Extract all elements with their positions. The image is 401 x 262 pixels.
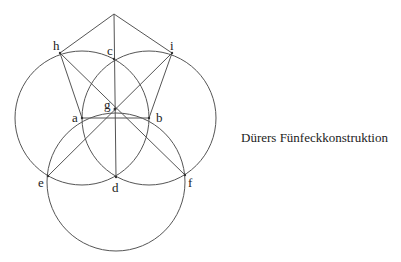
label-e: e [38,175,44,190]
line-i-b [149,53,172,118]
line-apex-d [114,14,116,177]
line-h-a [60,53,82,118]
label-h: h [53,38,60,53]
label-f: f [188,175,193,190]
line-apex-i [114,14,172,53]
label-d: d [112,180,119,195]
label-c: c [107,43,113,58]
label-a: a [72,110,78,125]
figure-caption: Dürers Fünfeckkonstruktion [241,130,388,146]
label-b: b [156,110,163,125]
label-i: i [170,38,174,53]
label-g: g [104,97,111,112]
line-h-f [60,53,185,175]
line-apex-h [60,14,114,53]
